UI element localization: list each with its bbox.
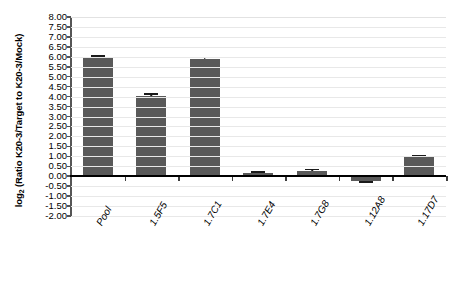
y-axis-tick-mark xyxy=(67,156,71,158)
y-axis-tick-mark xyxy=(67,166,71,168)
y-axis-tick-mark xyxy=(67,106,71,108)
error-bar-cap xyxy=(251,171,265,173)
error-bar-cap xyxy=(305,169,319,171)
gridline xyxy=(71,37,446,38)
y-axis-tick-mark xyxy=(67,56,71,58)
gridline xyxy=(71,67,446,68)
gridline xyxy=(71,117,446,118)
y-axis-title-main: log xyxy=(14,193,25,207)
y-axis-tick-mark xyxy=(67,126,71,128)
bar-chart: log2 (Ratio K20-3/Target to K20-3/Mock) … xyxy=(0,0,460,292)
y-axis-tick-mark xyxy=(67,46,71,48)
y-axis-tick-mark xyxy=(67,66,71,68)
x-axis-tick-mark xyxy=(446,176,448,181)
y-axis-tick-mark xyxy=(67,36,71,38)
gridline xyxy=(71,166,446,167)
gridline xyxy=(71,146,446,147)
y-axis-tick-mark xyxy=(67,116,71,118)
gridline xyxy=(71,47,446,48)
gridline xyxy=(71,107,446,108)
y-axis-tick-mark xyxy=(67,76,71,78)
y-axis-tick-mark xyxy=(67,185,71,187)
gridline xyxy=(71,97,446,98)
gridline xyxy=(71,206,446,207)
error-bar-cap xyxy=(359,181,373,183)
y-axis-tick-mark xyxy=(67,146,71,148)
y-axis-title-subscript: 2 xyxy=(19,189,26,193)
y-axis-tick-mark xyxy=(67,16,71,18)
y-axis-tick-mark xyxy=(67,86,71,88)
gridline xyxy=(71,77,446,78)
gridline xyxy=(71,136,446,137)
gridline xyxy=(71,126,446,127)
y-axis-title-text: log2 (Ratio K20-3/Target to K20-3/Mock) xyxy=(14,33,25,207)
y-axis-tick-mark xyxy=(67,205,71,207)
gridline xyxy=(71,186,446,187)
y-axis-tick-mark xyxy=(67,195,71,197)
y-axis-tick-mark xyxy=(67,136,71,138)
zero-baseline xyxy=(70,175,446,177)
gridline xyxy=(71,17,446,18)
gridline xyxy=(71,196,446,197)
gridline xyxy=(71,57,446,58)
y-axis-tick-labels: 8.007.507.006.506.005.505.004.504.003.50… xyxy=(29,17,67,216)
y-axis-tick-label: -2.00 xyxy=(31,211,67,221)
x-axis-tick-labels: Pool1.5F51.7C11.7E41.7G81.12A81.17D7 xyxy=(71,216,446,292)
y-axis-tick-mark xyxy=(67,26,71,28)
plot-area xyxy=(71,17,446,216)
gridline xyxy=(71,27,446,28)
gridline xyxy=(71,87,446,88)
error-bar-cap xyxy=(144,93,158,95)
gridline xyxy=(71,156,446,157)
y-axis-title-rest: (Ratio K20-3/Target to K20-3/Mock) xyxy=(14,33,25,189)
y-axis-tick-mark xyxy=(67,96,71,98)
